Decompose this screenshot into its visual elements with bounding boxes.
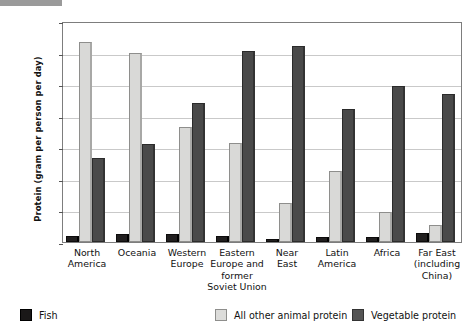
legend-label: All other animal protein — [234, 310, 347, 321]
bar-group — [63, 23, 113, 242]
y-tick-mark — [59, 244, 63, 245]
fish-bar — [316, 237, 329, 242]
animal-protein-bar — [279, 203, 292, 242]
vegetable-protein-bar — [242, 51, 255, 242]
x-axis-label-line: Soviet Union — [203, 281, 271, 292]
x-axis-label-line: Far East — [403, 247, 471, 258]
animal-protein-bar — [129, 53, 142, 242]
fish-bar — [116, 234, 129, 242]
protein-consumption-bar-chart: Protein (gram per person per day) 010203… — [0, 0, 472, 332]
vegetable-protein-bar — [442, 94, 455, 242]
bar-group — [413, 23, 463, 242]
vegetable-protein-bar — [192, 103, 205, 242]
animal-protein-bar — [379, 212, 392, 242]
bar-group — [363, 23, 413, 242]
bar-group — [113, 23, 163, 242]
x-axis-label-line: America — [53, 258, 121, 269]
fish-bar — [366, 237, 379, 242]
x-axis-category-label: Far East(includingChina) — [403, 247, 471, 281]
legend-entry[interactable]: Fish — [20, 309, 58, 321]
animal-protein-bar — [329, 171, 342, 242]
fish-bar — [216, 236, 229, 242]
x-axis-labels: NorthAmericaOceaniaWesternEuropeEasternE… — [62, 247, 462, 307]
animal-protein-bar — [79, 42, 92, 242]
animal-protein-bar — [429, 225, 442, 242]
fish-swatch — [20, 309, 32, 321]
bar-group — [163, 23, 213, 242]
y-axis-title: Protein (gram per person per day) — [33, 34, 43, 244]
chart-legend: FishAll other animal proteinVegetable pr… — [0, 309, 472, 331]
fish-bar — [416, 233, 429, 242]
x-axis-label-line: (including — [403, 258, 471, 269]
vegetable-protein-bar — [92, 158, 105, 242]
fish-bar — [266, 239, 279, 242]
fish-bar — [66, 236, 79, 242]
bar-group — [213, 23, 263, 242]
vegetable-protein-bar — [142, 144, 155, 242]
x-axis-label-line: America — [303, 258, 371, 269]
bar-group — [263, 23, 313, 242]
x-axis-label-line: China) — [403, 270, 471, 281]
fish-bar — [166, 234, 179, 242]
plot-area: 010203040506070 — [62, 22, 462, 243]
animal-protein-bar — [179, 127, 192, 242]
vegetable-protein-bar — [392, 86, 405, 242]
x-axis-label-line: former — [203, 270, 271, 281]
legend-entry[interactable]: Vegetable protein — [352, 309, 456, 321]
vegetable-protein-bar — [342, 109, 355, 242]
legend-label: Vegetable protein — [371, 310, 456, 321]
vegetable-protein-swatch — [352, 309, 364, 321]
legend-label: Fish — [39, 310, 58, 321]
bar-group — [313, 23, 363, 242]
legend-entry[interactable]: All other animal protein — [215, 309, 347, 321]
animal-protein-swatch — [215, 309, 227, 321]
vegetable-protein-bar — [292, 46, 305, 242]
animal-protein-bar — [229, 143, 242, 242]
